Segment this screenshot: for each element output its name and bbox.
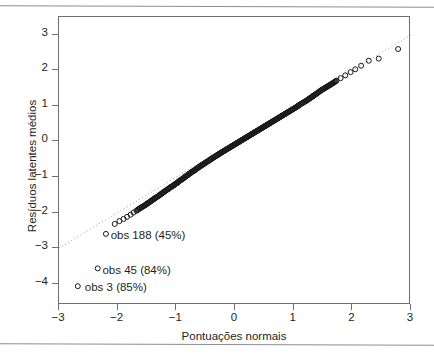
page-rule-top bbox=[0, 5, 434, 8]
qq-plot-figure: 3210−1−2−3−4 −3−2−10123 obs 188 (45%)obs… bbox=[0, 0, 434, 355]
x-tick-label: 1 bbox=[281, 311, 305, 323]
point-annotation: obs 45 (84%) bbox=[102, 264, 170, 276]
data-point bbox=[396, 47, 401, 52]
data-point bbox=[343, 73, 348, 78]
y-tick-label: −4 bbox=[26, 275, 48, 287]
data-point bbox=[338, 76, 343, 81]
x-tick-label: −3 bbox=[46, 311, 70, 323]
data-point bbox=[359, 63, 364, 68]
point-annotation: obs 188 (45%) bbox=[111, 229, 186, 241]
x-axis-label: Pontuações normais bbox=[58, 330, 410, 342]
data-points bbox=[75, 47, 400, 289]
x-tick-label: 0 bbox=[222, 311, 246, 323]
y-tick-label: 3 bbox=[26, 26, 48, 38]
plot-canvas bbox=[59, 17, 411, 305]
data-point bbox=[103, 231, 108, 236]
x-tick-label: −1 bbox=[163, 311, 187, 323]
data-point bbox=[376, 56, 381, 61]
data-point bbox=[75, 284, 80, 289]
point-annotation: obs 3 (85%) bbox=[85, 281, 147, 293]
data-point bbox=[366, 58, 371, 63]
data-point bbox=[112, 221, 117, 226]
plot-frame: obs 188 (45%)obs 45 (84%)obs 3 (85%) bbox=[58, 16, 410, 304]
data-point bbox=[353, 67, 358, 72]
x-tick-label: −2 bbox=[105, 311, 129, 323]
x-tick-label: 3 bbox=[398, 311, 422, 323]
data-point bbox=[95, 266, 100, 271]
x-tick-label: 2 bbox=[339, 311, 363, 323]
page-rule-bottom bbox=[0, 343, 434, 346]
y-axis-label: Resíduos latentes médios bbox=[26, 56, 38, 276]
